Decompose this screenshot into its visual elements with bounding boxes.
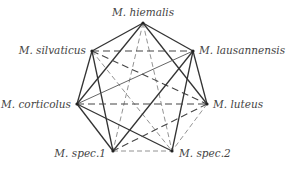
node-label-hiemalis: M. hiemalis [111, 6, 175, 18]
node-spec2 [170, 149, 173, 152]
nodes-group [75, 21, 208, 152]
edge-silvaticus-corticolus [77, 51, 92, 104]
node-hiemalis [141, 21, 144, 24]
node-label-spec2: M. spec.2 [178, 147, 231, 159]
node-lausannensis [191, 49, 194, 52]
edge-silvaticus-luteus [92, 51, 207, 104]
edge-silvaticus-spec1 [92, 51, 113, 151]
edges-group [77, 23, 207, 151]
edge-hiemalis-luteus [143, 23, 207, 104]
node-luteus [205, 102, 208, 105]
node-label-spec1: M. spec.1 [53, 147, 106, 159]
node-spec1 [111, 149, 114, 152]
node-label-lausannensis: M. lausannensis [198, 44, 286, 56]
edge-lausannensis-spec2 [172, 51, 193, 151]
node-label-corticolus: M. corticolus [0, 98, 72, 110]
node-silvaticus [90, 49, 93, 52]
node-label-silvaticus: M. silvaticus [18, 44, 87, 56]
node-corticolus [75, 102, 78, 105]
species-network-diagram: M. hiemalisM. silvaticusM. lausannensisM… [0, 0, 287, 169]
edge-hiemalis-silvaticus [92, 23, 143, 51]
node-label-luteus: M. luteus [212, 98, 264, 110]
edge-hiemalis-lausannensis [143, 23, 193, 51]
edge-lausannensis-corticolus [77, 51, 193, 104]
edge-luteus-spec1 [113, 104, 207, 151]
edge-corticolus-spec2 [77, 104, 172, 151]
